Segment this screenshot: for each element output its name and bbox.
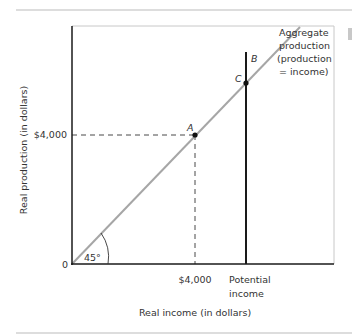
y-axis-title: Real production (in dollars) [18,86,29,214]
angle-label: 45° [84,252,101,263]
point-c [243,80,248,85]
point-b-label: B [251,53,258,64]
aggregate-label-1: Aggregate [279,27,329,38]
point-c-label: C [235,73,242,84]
origin-label: 0 [62,259,68,270]
chart: A B C Aggregate production (production =… [0,0,352,335]
aggregate-label-3: (production [277,53,332,64]
y-tick-4000: $4,000 [34,129,67,140]
aggregate-label-2: production [279,40,330,51]
x-tick-4000: $4,000 [178,274,211,285]
aggregate-production-line [72,27,300,264]
x-axis-title: Real income (in dollars) [139,307,251,318]
point-a-label: A [186,122,194,133]
point-a [192,132,197,137]
aggregate-label-4: = income) [279,66,328,77]
side-marker [348,28,352,40]
angle-arc [101,233,109,264]
potential-label-2: income [229,288,264,299]
potential-label-1: Potential [229,274,271,285]
